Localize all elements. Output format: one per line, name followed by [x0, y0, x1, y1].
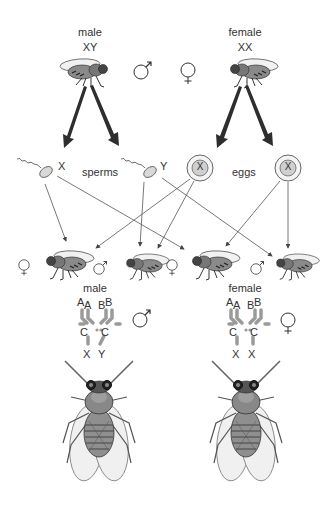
sperm-y [121, 158, 158, 179]
female-chr-b2: B [254, 296, 261, 308]
sperm-y-label: Y [160, 160, 167, 172]
male-sex-chr-2: Y [98, 348, 105, 360]
male-chr-c1: C [80, 326, 88, 338]
male-chr-c2: C [101, 326, 109, 338]
female-parent-label: female [228, 26, 261, 38]
karyotype-female-symbol-icon [281, 313, 295, 334]
offspring-male-icon-2 [251, 262, 264, 275]
karyotype-male-symbol-icon [133, 310, 150, 327]
offspring-fly-1 [47, 250, 95, 280]
egg-1-label: X [197, 161, 204, 172]
female-chr-c2: C [250, 326, 258, 338]
female-genotype: XX [238, 41, 253, 53]
karyotype-female-label: female [228, 282, 261, 294]
female-sex-chr-1: X [232, 348, 239, 360]
fertilization-arrows [45, 176, 288, 256]
diagram-canvas [0, 0, 333, 507]
female-parent-fly [231, 58, 279, 88]
male-parent-fly [60, 58, 108, 88]
offspring-fly-3 [193, 250, 241, 280]
offspring-female-icon-1 [19, 260, 30, 276]
male-fly-dorsal [63, 361, 135, 483]
offspring-fly-4 [277, 253, 320, 280]
male-chr-b2: B [105, 296, 112, 308]
male-symbol-icon [134, 62, 151, 79]
male-parent-label: male [78, 26, 102, 38]
male-genotype: XY [83, 41, 98, 53]
female-chr-a2: A [233, 299, 240, 311]
sperm-x-label: X [58, 160, 65, 172]
egg-2-label: X [285, 161, 292, 172]
offspring-fly-2 [127, 253, 170, 280]
male-sex-chr-1: X [83, 348, 90, 360]
female-chr-c1: C [229, 326, 237, 338]
karyotype-male-label: male [83, 282, 107, 294]
female-sex-chr-2: X [248, 348, 255, 360]
sperms-label: sperms [82, 166, 118, 178]
female-fly-dorsal [210, 361, 282, 483]
offspring-male-icon-1 [94, 262, 107, 275]
meiosis-arrows [63, 85, 273, 148]
eggs-label: eggs [232, 166, 256, 178]
male-chr-a2: A [84, 299, 91, 311]
sperm-x [17, 158, 54, 179]
female-symbol-icon [181, 63, 195, 84]
